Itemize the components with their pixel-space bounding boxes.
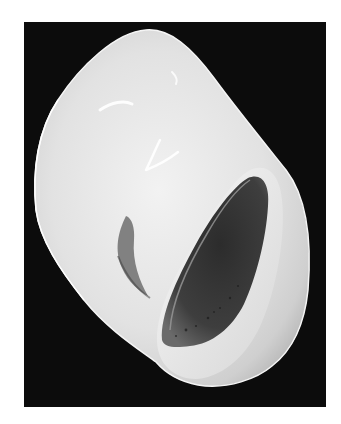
shell-image xyxy=(0,0,341,424)
